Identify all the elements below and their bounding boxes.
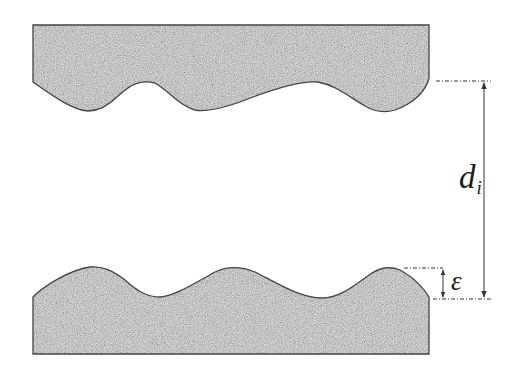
rough-surfaces-diagram bbox=[0, 0, 523, 380]
roughness-label: ε bbox=[451, 268, 462, 295]
bottom-surface bbox=[33, 267, 429, 354]
distance-subscript: i bbox=[477, 177, 482, 198]
distance-label: di bbox=[459, 161, 482, 197]
distance-symbol: d bbox=[459, 159, 476, 195]
top-surface bbox=[33, 25, 429, 112]
